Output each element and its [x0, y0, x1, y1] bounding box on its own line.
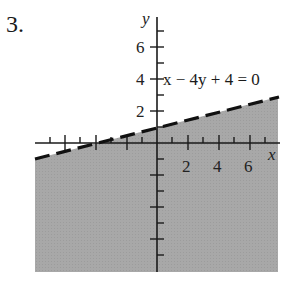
x-axis-label: x [267, 145, 276, 164]
equation-label: x − 4y + 4 = 0 [163, 70, 260, 89]
y-tick-label-4: 4 [136, 70, 145, 89]
inequality-graph: 2 4 6 6 4 2 y x x − 4y + 4 = 0 [0, 0, 283, 288]
x-tick-label-6: 6 [244, 157, 253, 176]
y-tick-label-2: 2 [136, 102, 145, 121]
y-tick-label-6: 6 [136, 38, 145, 57]
x-tick-label-2: 2 [182, 157, 191, 176]
y-axis-label: y [140, 9, 150, 28]
x-tick-label-4: 4 [213, 157, 222, 176]
